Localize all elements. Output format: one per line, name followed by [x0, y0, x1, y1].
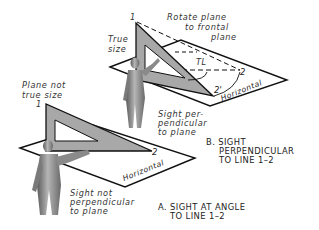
upper-illustration: 1 Rotate plane to frontal plane True siz… [108, 12, 287, 137]
rotate-plane-label-3: plane [210, 32, 237, 42]
true-size-label-2: size [108, 44, 126, 54]
sight-not-perpendicular-label-3: to plane [70, 206, 108, 216]
rotate-plane-label-2: to frontal [185, 22, 229, 32]
upper-point-2-label: 2 [240, 67, 245, 77]
true-size-label-1: True [108, 34, 128, 44]
captions: B. SIGHT PERPENDICULAR TO LINE 1–2 A. SI… [158, 137, 294, 221]
rotate-plane-label-1: Rotate plane [167, 12, 227, 22]
sight-perpendicular-label-3: to plane [158, 127, 196, 137]
plane-not-true-size-label-2: true size [22, 90, 63, 100]
lower-point-1-label: 1 [36, 99, 42, 109]
caption-b-line-3: TO LINE 1–2 [218, 155, 274, 165]
sight-line-diagram: 1 Rotate plane to frontal plane True siz… [0, 0, 319, 230]
lower-point-2-label: 2 [152, 147, 157, 157]
plane-not-true-size-label-1: Plane not [22, 80, 66, 90]
caption-a-line-2: TO LINE 1–2 [169, 211, 225, 221]
lower-illustration: Plane not true size 1 2 Horizontal Sight… [20, 80, 195, 216]
upper-point-1-label: 1 [130, 12, 136, 22]
true-length-label: TL [196, 57, 207, 67]
